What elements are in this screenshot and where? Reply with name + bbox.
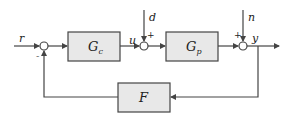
noise-label: n [248,11,255,24]
sum1-minus-sign: - [36,50,40,61]
disturbance-label: d [149,11,156,24]
feedback-block: F [118,83,170,112]
plant-label: G [186,39,196,54]
controller-label: G [88,39,98,54]
controller-block: Gc [68,32,120,61]
summing-junction-2 [140,42,148,50]
control-label: u [129,34,136,47]
output-label: y [251,32,259,45]
summing-junction-1 [40,42,48,50]
controller-subscript: c [98,47,103,56]
summing-junction-3 [239,42,247,50]
sum3-plus-sign: + [234,30,242,40]
sum2-plus-sign: + [147,30,155,40]
feedback-label: F [138,90,149,105]
plant-subscript: p [196,47,201,56]
plant-block: Gp [166,32,218,61]
block-diagram: r - Gc u d + Gp n + y F [0,0,295,118]
reference-label: r [19,32,25,45]
